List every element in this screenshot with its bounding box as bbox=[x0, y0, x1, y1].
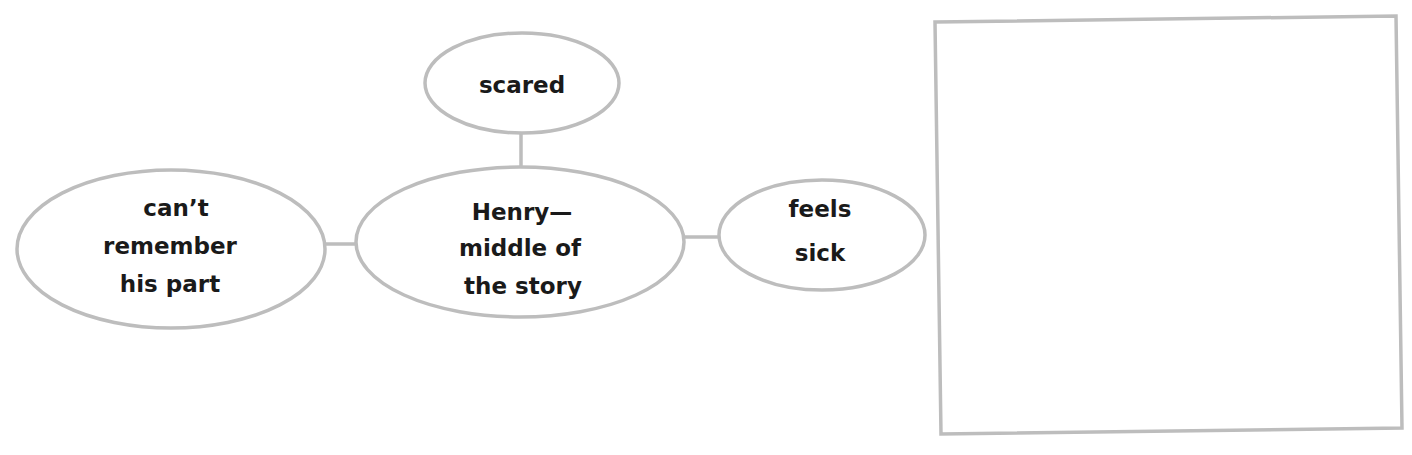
node-left: can’t remember his part bbox=[17, 170, 325, 328]
node-right: feels sick bbox=[719, 180, 925, 290]
node-right-line-1: feels bbox=[789, 196, 852, 222]
node-left-line-2: remember bbox=[103, 233, 238, 259]
node-top-line-1: scared bbox=[479, 72, 565, 98]
answer-box[interactable] bbox=[935, 16, 1402, 434]
node-left-line-1: can’t bbox=[143, 195, 208, 221]
node-center-line-2: middle of bbox=[459, 235, 582, 261]
node-left-line-3: his part bbox=[120, 271, 220, 297]
node-top: scared bbox=[425, 33, 619, 133]
web-diagram: scared can’t remember his part Henry— mi… bbox=[0, 0, 1412, 455]
node-center-line-1: Henry— bbox=[472, 199, 573, 225]
node-center-line-3: the story bbox=[464, 273, 582, 299]
node-center: Henry— middle of the story bbox=[356, 167, 684, 317]
node-right-line-2: sick bbox=[795, 240, 846, 266]
